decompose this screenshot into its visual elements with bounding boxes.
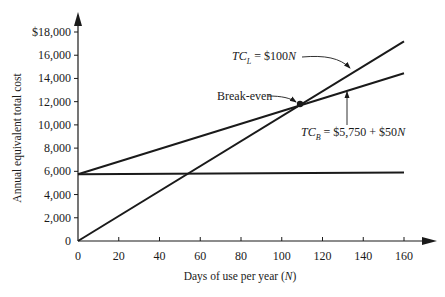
x-tick-label: 60: [194, 249, 206, 263]
y-axis-label: Annual equivalent total cost: [11, 73, 24, 203]
x-tick-label: 140: [354, 249, 372, 263]
tcl-label: TCL = $100N: [232, 49, 297, 66]
y-tick-label: 4,000: [44, 188, 71, 202]
tcl-line: [78, 41, 404, 241]
x-tick-label: 80: [235, 249, 247, 263]
y-tick-label: $18,000: [32, 25, 71, 39]
y-tick-label: 0: [65, 234, 71, 248]
y-ticks: 02,0004,0006,0008,00010,00012,00014,0001…: [32, 25, 78, 248]
y-axis-arrow-icon: [74, 12, 82, 26]
y-tick-label: 16,000: [38, 48, 71, 62]
series-lines: [78, 41, 404, 241]
x-tick-label: 0: [75, 249, 81, 263]
tcl-arrow: [302, 56, 350, 68]
y-tick-label: 10,000: [38, 118, 71, 132]
y-tick-label: 6,000: [44, 164, 71, 178]
x-axis-arrow-icon: [422, 237, 437, 245]
x-tick-label: 160: [395, 249, 413, 263]
x-tick-label: 40: [154, 249, 166, 263]
y-tick-label: 12,000: [38, 95, 71, 109]
break-even-chart: 02,0004,0006,0008,00010,00012,00014,0001…: [0, 0, 445, 297]
x-tick-label: 20: [113, 249, 125, 263]
fixed-cost-line: [78, 173, 404, 175]
break-even-point: [297, 101, 303, 107]
x-tick-label: 100: [273, 249, 291, 263]
tcb-label: TCB = $5,750 + $50N: [301, 125, 406, 142]
x-axis-label: Days of use per year (N): [184, 270, 297, 283]
x-tick-label: 120: [314, 249, 332, 263]
break-even-label: Break-even: [217, 89, 272, 103]
y-tick-label: 2,000: [44, 211, 71, 225]
y-tick-label: 14,000: [38, 71, 71, 85]
y-tick-label: 8,000: [44, 141, 71, 155]
